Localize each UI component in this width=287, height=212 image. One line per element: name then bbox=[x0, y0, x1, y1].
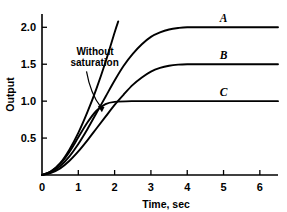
x-tick-label: 1 bbox=[75, 181, 81, 193]
series-label-C: C bbox=[220, 86, 228, 98]
plot-curves bbox=[42, 21, 278, 175]
series-label-B: B bbox=[219, 49, 228, 61]
y-tick-label: 0.5 bbox=[21, 132, 36, 144]
x-tick-label: 4 bbox=[184, 181, 191, 193]
x-axis-tick-labels: 0123456 bbox=[39, 181, 263, 193]
chart-figure: 0.51.01.52.0 0123456 Output Time, sec AB… bbox=[0, 0, 287, 212]
annotation-text-line1: Without bbox=[76, 46, 114, 57]
x-axis-title: Time, sec bbox=[142, 198, 190, 210]
annotation-arrow-icon bbox=[86, 71, 100, 107]
curve-without-saturation-curve bbox=[42, 21, 118, 175]
y-tick-label: 2.0 bbox=[21, 21, 36, 33]
y-tick-label: 1.0 bbox=[21, 95, 36, 107]
curve-B bbox=[42, 64, 278, 175]
series-labels: ABC bbox=[219, 12, 228, 98]
y-axis-tick-labels: 0.51.01.52.0 bbox=[21, 21, 36, 144]
annotation-text-line2: saturation bbox=[70, 57, 118, 68]
x-tick-label: 6 bbox=[257, 181, 263, 193]
axes bbox=[42, 14, 278, 175]
y-tick-label: 1.5 bbox=[21, 58, 36, 70]
y-axis-title: Output bbox=[4, 77, 16, 112]
x-tick-label: 3 bbox=[148, 181, 154, 193]
output-vs-time-chart: 0.51.01.52.0 0123456 Output Time, sec AB… bbox=[0, 0, 287, 212]
x-tick-label: 0 bbox=[39, 181, 45, 193]
x-tick-label: 5 bbox=[220, 181, 226, 193]
curve-C bbox=[42, 101, 278, 175]
series-label-A: A bbox=[219, 12, 228, 24]
x-tick-label: 2 bbox=[112, 181, 118, 193]
